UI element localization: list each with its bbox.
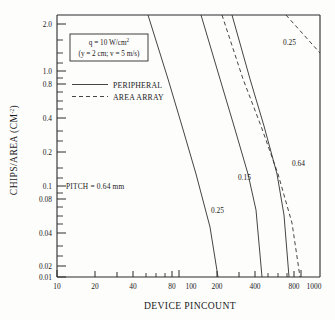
x-tick-label: 100 xyxy=(185,282,196,291)
condition-heat-flux: q = 10 W/cm xyxy=(89,39,127,47)
y-tick-label: 0.02 xyxy=(39,262,52,271)
x-axis-ticks xyxy=(57,270,301,277)
x-tick-label: 10 xyxy=(53,282,61,291)
x-axis-title: DEVICE PINCOUNT xyxy=(144,300,236,311)
x-tick-labels: 10 20 40 80 100 200 400 800 1000 xyxy=(53,282,321,291)
curve-peripheral-025 xyxy=(201,15,262,277)
condition-geometry: (y = 2 cm; v = 5 m/s) xyxy=(78,50,140,58)
x-tick-label: 40 xyxy=(129,282,137,291)
y-tick-label: 0.04 xyxy=(39,229,52,238)
annotation-curve-025-dashed: 0.25 xyxy=(283,38,296,47)
y-axis-title-main: CHIPS/AREA (CM xyxy=(8,114,20,196)
y-axis-title-tail: ) xyxy=(8,105,20,109)
series-legend: PERIPHERAL AREA ARRAY xyxy=(72,81,164,102)
legend-label-peripheral: PERIPHERAL xyxy=(113,81,162,90)
conditions-legend-box: q = 10 W/cm2 (y = 2 cm; v = 5 m/s) xyxy=(70,34,148,61)
y-tick-label: 0.08 xyxy=(39,195,52,204)
annotation-curve-015-solid: 0.15 xyxy=(238,173,251,182)
y-tick-label: 0.01 xyxy=(39,273,52,282)
x-tick-label: 80 xyxy=(168,282,176,291)
x-tick-label: 20 xyxy=(91,282,99,291)
y-tick-label: 0.4 xyxy=(43,114,53,123)
data-curves xyxy=(148,15,320,277)
svg-text:q = 10 W/cm2: q = 10 W/cm2 xyxy=(89,37,130,47)
x-tick-label: 800 xyxy=(288,282,299,291)
y-tick-labels: 2.0 1.0 0.8 0.4 0.2 0.1 0.08 0.04 0.02 0… xyxy=(39,20,52,282)
y-axis-title: CHIPS/AREA (CM-2) xyxy=(8,105,20,195)
figure-container: 2.0 1.0 0.8 0.4 0.2 0.1 0.08 0.04 0.02 0… xyxy=(0,0,335,320)
y-axis-minor-ticks xyxy=(57,40,63,256)
annotation-curve-025-solid: 0.25 xyxy=(211,206,224,215)
y-tick-label: 2.0 xyxy=(43,20,53,29)
chart-canvas: 2.0 1.0 0.8 0.4 0.2 0.1 0.08 0.04 0.02 0… xyxy=(0,0,335,320)
curve-area-array-025 xyxy=(286,15,320,53)
y-tick-label: 0.1 xyxy=(43,182,53,191)
curve-peripheral-064 xyxy=(148,15,218,277)
legend-label-area-array: AREA ARRAY xyxy=(113,93,164,102)
condition-heat-flux-exponent: 2 xyxy=(127,37,130,43)
y-axis-major-ticks xyxy=(57,24,66,277)
x-tick-label: 1000 xyxy=(307,282,322,291)
x-tick-label: 400 xyxy=(249,282,260,291)
annotation-curve-064-dashed: 0.64 xyxy=(292,159,305,168)
annotation-pitch-064: PITCH = 0.64 mm xyxy=(66,182,125,191)
curve-area-array-064 xyxy=(222,15,300,277)
x-tick-label: 200 xyxy=(211,282,222,291)
y-tick-label: 1.0 xyxy=(43,67,53,76)
y-tick-label: 0.8 xyxy=(43,80,53,89)
svg-text:CHIPS/AREA (CM-2): CHIPS/AREA (CM-2) xyxy=(8,105,20,195)
y-tick-label: 0.2 xyxy=(43,148,53,157)
curve-peripheral-015 xyxy=(232,15,289,277)
